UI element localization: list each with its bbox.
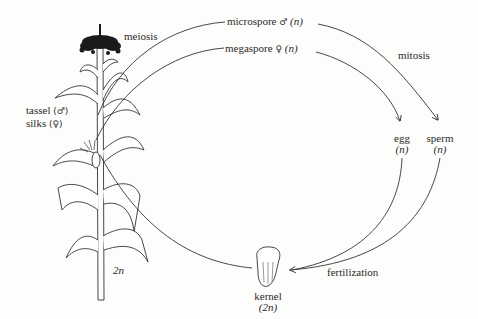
microspore-label: microspore ♂ (n): [227, 16, 303, 28]
maize-life-cycle-diagram: meiosis microspore ♂ (n) megaspore ♀ (n)…: [0, 0, 478, 319]
female-symbol-icon: ♀: [275, 44, 282, 54]
silks-text: silks: [26, 117, 46, 129]
tassel-illustration: [80, 24, 122, 55]
corn-plant-illustration: [53, 40, 148, 300]
silks-female-symbol-icon: (♀): [49, 119, 63, 129]
meiosis-label: meiosis: [124, 31, 158, 42]
cycle-arrows: [96, 22, 440, 270]
silks-label: silks (♀): [26, 118, 63, 130]
megaspore-ploidy: (n): [285, 42, 298, 54]
kernel-illustration: [257, 247, 280, 287]
megaspore-text: megaspore: [225, 42, 273, 54]
tassel-text: tassel: [26, 104, 50, 116]
male-symbol-icon: ♂: [279, 17, 287, 27]
mitosis-label: mitosis: [398, 50, 430, 61]
tassel-male-symbol-icon: (♂): [53, 106, 68, 116]
microspore-text: microspore: [227, 15, 276, 27]
plant-ploidy-label: 2n: [113, 265, 124, 276]
tassel-label: tassel (♂): [26, 105, 68, 117]
sperm-ploidy: (n): [434, 144, 447, 155]
egg-ploidy: (n): [396, 144, 409, 155]
megaspore-label: megaspore ♀ (n): [225, 43, 298, 55]
kernel-ploidy: (2n): [259, 302, 277, 313]
fertilization-label: fertilization: [327, 267, 378, 278]
microspore-ploidy: (n): [290, 15, 303, 27]
